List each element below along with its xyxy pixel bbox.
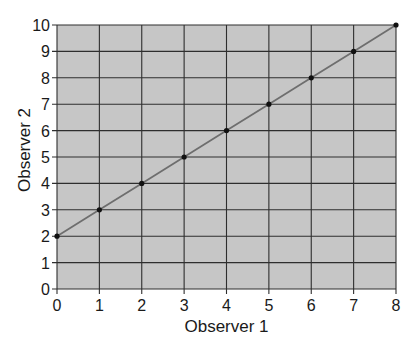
- x-tick-label: 6: [307, 297, 316, 314]
- data-point: [97, 207, 102, 212]
- x-tick-label: 0: [53, 297, 62, 314]
- x-tick-label: 2: [137, 297, 146, 314]
- data-point: [182, 154, 187, 159]
- x-axis-ticks: 012345678: [53, 297, 401, 314]
- y-tick-label: 10: [32, 17, 50, 34]
- y-axis-title: Observer 2: [15, 108, 34, 192]
- data-point: [139, 181, 144, 186]
- scatter-line-chart: 012345678 012345678910 Observer 1 Observ…: [0, 0, 417, 345]
- x-tick-label: 3: [180, 297, 189, 314]
- data-point: [54, 234, 59, 239]
- y-tick-label: 0: [41, 281, 50, 298]
- y-tick-label: 5: [41, 149, 50, 166]
- x-tick-label: 1: [95, 297, 104, 314]
- y-axis-ticks: 012345678910: [32, 17, 50, 298]
- data-point: [309, 75, 314, 80]
- y-tick-label: 9: [41, 43, 50, 60]
- data-point: [224, 128, 229, 133]
- y-tick-label: 4: [41, 175, 50, 192]
- data-point: [393, 22, 398, 27]
- data-point: [266, 102, 271, 107]
- y-tick-label: 3: [41, 202, 50, 219]
- x-tick-label: 4: [222, 297, 231, 314]
- x-tick-label: 8: [392, 297, 401, 314]
- x-tick-label: 7: [349, 297, 358, 314]
- x-axis-title: Observer 1: [184, 317, 268, 336]
- x-tick-label: 5: [264, 297, 273, 314]
- data-point: [351, 49, 356, 54]
- y-tick-label: 6: [41, 123, 50, 140]
- y-tick-label: 1: [41, 255, 50, 272]
- y-tick-label: 7: [41, 96, 50, 113]
- y-tick-label: 8: [41, 70, 50, 87]
- y-tick-label: 2: [41, 228, 50, 245]
